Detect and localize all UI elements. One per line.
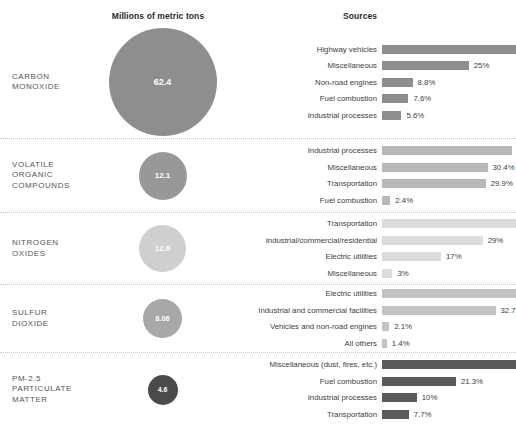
bar-value: 7.6% [408,94,431,103]
bar-value: 29.9% [486,179,513,188]
total-value: 62.4 [154,78,172,87]
bar [382,252,441,261]
pollutant-name-line: DIOXIDE [12,319,105,330]
total-bubble: 12.0 [139,225,186,272]
total-value: 12.1 [155,172,171,180]
bar-value: 29% [483,236,504,245]
bar-value: 5.6% [401,111,424,120]
column-headers: Millions of metric tons Sources [0,0,516,26]
sources-bars: Electric utilities63.8%Industrial and co… [220,285,516,353]
pollutant-name: CARBONMONOXIDE [0,72,105,93]
total-bubble-cell: 12.1 [105,152,220,200]
source-label: Vehicles and non-road engines [220,322,382,331]
pollutant-name-line: MONOXIDE [12,82,105,93]
total-bubble-cell: 8.06 [105,299,220,338]
sources-bars: Industrial processes37.4%Miscellaneous30… [220,142,516,210]
bar-value: 2.1% [389,322,412,331]
bar [382,219,516,228]
bar [382,61,469,70]
bar-track: 29% [382,236,516,245]
bar-value: 1.4% [387,339,410,348]
pollutant-row: NITROGENOXIDES12.0Transportation51%Indus… [0,212,516,284]
bar-track: 7.7% [382,410,516,419]
bar [382,410,409,419]
bar [382,45,516,54]
bar-track: 7.6% [382,94,516,103]
source-label: Electric utilities [220,252,382,261]
source-label: Fuel combustion [220,196,382,205]
source-label: All others [220,339,382,348]
bar [382,146,512,155]
source-bar-row: Transportation29.9% [220,176,516,191]
source-bar-row: Miscellaneous (dust, fires, etc.)61% [220,357,516,372]
source-label: Industrial processes [220,111,382,120]
pollutant-name-line: VOLATILE [12,160,105,171]
pollutant-name: VOLATILEORGANICCOMPOUNDS [0,160,105,192]
sources-bars: Miscellaneous (dust, fires, etc.)61%Fuel… [220,356,516,424]
pollutant-name-line: COMPOUNDS [12,181,105,192]
pollutant-name-line: NITROGEN [12,238,105,249]
emissions-infographic: Millions of metric tons Sources CARBONMO… [0,0,516,424]
pollutant-rows: CARBONMONOXIDE62.4Highway vehicles53%Mis… [0,26,516,424]
bar [382,236,483,245]
bar-track: 25% [382,61,516,70]
total-bubble: 12.1 [139,152,187,200]
bar [382,179,486,188]
bar [382,322,389,331]
source-label: Industrial and commercial facilities [220,306,382,315]
bar [382,196,390,205]
bar-track: 10% [382,393,516,402]
bar [382,360,516,369]
source-bar-row: Electric utilities17% [220,249,516,264]
total-bubble: 4.6 [148,375,178,405]
source-bar-row: Fuel combustion21.3% [220,374,516,389]
source-bar-row: Industrial and commercial facilities32.7… [220,303,516,318]
header-millions-of-metric-tons: Millions of metric tons [78,11,238,21]
pollutant-name-line: PM-2.5 [12,374,105,385]
bar-value: 2.4% [390,196,413,205]
bar [382,306,496,315]
bar-value: 7.7% [409,410,432,419]
bar-value: 30.4% [488,163,515,172]
total-bubble-cell: 4.6 [105,375,220,405]
bar [382,163,488,172]
total-bubble-cell: 62.4 [105,28,220,136]
bar-track: 8.8% [382,78,516,87]
bar-value: 3% [392,269,408,278]
source-label: Non-road engines [220,78,382,87]
bar [382,269,392,278]
source-bar-row: Transportation51% [220,216,516,231]
bar-track: 2.4% [382,196,516,205]
pollutant-row: PM-2.5PARTICULATEMATTER4.6Miscellaneous … [0,352,516,424]
bar-track: 5.6% [382,111,516,120]
bar [382,377,456,386]
bar-track: 29.9% [382,179,516,188]
source-bar-row: Fuel combustion2.4% [220,193,516,208]
bar [382,393,417,402]
source-label: Transportation [220,219,382,228]
bar-value: 17% [441,252,462,261]
source-label: Electric utilities [220,289,382,298]
pollutant-row: CARBONMONOXIDE62.4Highway vehicles53%Mis… [0,26,516,138]
total-value: 4.6 [158,386,168,393]
bar-track: 37.4% [382,146,516,155]
pollutant-name-line: PARTICULATE [12,384,105,395]
source-label: Highway vehicles [220,45,382,54]
pollutant-row: VOLATILEORGANICCOMPOUNDS12.1Industrial p… [0,138,516,212]
bar-track: 17% [382,252,516,261]
source-bar-row: Industrial processes37.4% [220,143,516,158]
bar-track: 1.4% [382,339,516,348]
source-bar-row: Industrial processes5.6% [220,108,516,123]
bar-value: 32.7% [496,306,516,315]
bar-track: 3% [382,269,516,278]
source-label: Industrial processes [220,146,382,155]
total-value: 12.0 [155,245,171,253]
source-label: Miscellaneous (dust, fires, etc.) [220,360,382,369]
pollutant-name-line: SULFUR [12,308,105,319]
bar-track: 61% [382,360,516,369]
bar-value: 10% [417,393,438,402]
bar-value: 8.8% [413,78,436,87]
source-bar-row: Highway vehicles53% [220,42,516,57]
source-bar-row: All others1.4% [220,336,516,351]
source-bar-row: Electric utilities63.8% [220,286,516,301]
